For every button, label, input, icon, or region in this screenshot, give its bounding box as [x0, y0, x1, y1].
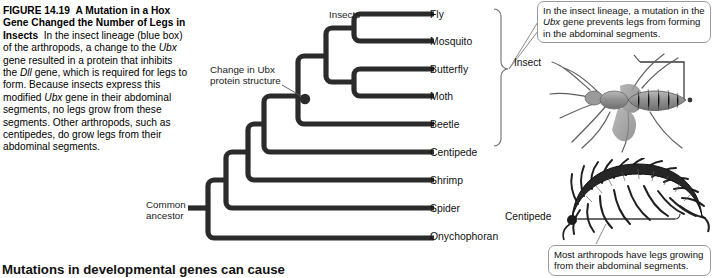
- taxon-label-spider: Spider: [430, 203, 460, 214]
- callout-top-gene: Ubx: [543, 16, 560, 27]
- callout-most-arthropods: Most arthropods have legs growing from t…: [548, 245, 711, 276]
- insect-photo: [546, 46, 706, 156]
- taxon-label-centipede: Centipede: [430, 147, 477, 158]
- taxon-label-beetle: Beetle: [430, 119, 459, 130]
- taxon-label-butterfly: Butterfly: [430, 64, 468, 75]
- branch-mosquito: [354, 28, 434, 41]
- branch-node2-up: [226, 152, 248, 180]
- common-ancestor-line-2: ancestor: [146, 210, 186, 221]
- figure-container: FIGURE 14.19 A Mutation in a Hox Gene Ch…: [0, 0, 712, 278]
- photo-label-centipede: Centipede: [505, 211, 551, 222]
- common-ancestor-line-1: Common: [146, 199, 186, 210]
- photo-label-insect: Insect: [514, 57, 541, 68]
- branch-spider: [226, 180, 434, 208]
- caption-gene-ubx-1: Ubx: [159, 42, 177, 53]
- taxon-label-fly: Fly: [430, 9, 444, 20]
- branch-lepidoptera-stem: [326, 56, 354, 82]
- phylogenetic-tree: [186, 0, 436, 258]
- branch-moth: [354, 82, 434, 96]
- callout-bottom-line-2: from their abdominal segments.: [554, 260, 688, 271]
- figure-number: FIGURE 14.19: [3, 5, 70, 16]
- branch-diptera-stem: [326, 28, 354, 56]
- ubx-annotation-line-1: Change in Ubx: [210, 64, 281, 75]
- callout-bottom-line-1: Most arthropods have legs growing: [554, 249, 703, 260]
- insects-clade-label: Insects: [329, 9, 360, 20]
- caption-gene-ubx-2: Ubx: [44, 92, 62, 103]
- centipede-body: [572, 164, 702, 218]
- figure-caption: FIGURE 14.19 A Mutation in a Hox Gene Ch…: [3, 5, 189, 154]
- taxon-label-moth: Moth: [430, 91, 453, 102]
- branch-insects-stem: [264, 96, 298, 124]
- branch-beetle: [298, 96, 434, 124]
- insects-brace: [494, 9, 508, 146]
- branch-butterfly: [354, 69, 434, 82]
- ubx-annotation-line-2: protein structure: [210, 75, 281, 86]
- branch-fly: [354, 14, 434, 28]
- taxon-label-onychophoran: Onychophoran: [430, 231, 498, 242]
- taxon-label-shrimp: Shrimp: [430, 175, 463, 186]
- branch-root-up: [208, 180, 226, 208]
- centipede-head: [567, 215, 577, 225]
- insect-wing-lower: [612, 108, 636, 141]
- callout-top-line-3: the abdominal segments.: [553, 28, 660, 39]
- section-running-head: Mutations in developmental genes can cau…: [2, 262, 285, 277]
- branch-shrimp: [248, 152, 434, 180]
- centipede-antenna: [563, 224, 570, 240]
- ubx-change-annotation: Change in Ubx protein structure: [210, 64, 281, 86]
- ubx-change-node-marker: [300, 94, 310, 104]
- branch-holometabola-up: [298, 56, 326, 96]
- insect-cercus: [688, 98, 693, 103]
- branch-centipede: [264, 124, 434, 152]
- centipede-photo: [562, 158, 710, 243]
- common-ancestor-label: Common ancestor: [146, 199, 186, 221]
- callout-insect-lineage: In the insect lineage, a mutation in the…: [537, 1, 711, 43]
- taxon-label-mosquito: Mosquito: [430, 36, 472, 47]
- caption-gene-dll: Dll: [20, 67, 32, 78]
- insect-thorax: [600, 91, 628, 109]
- callout-top-line-1: In the insect lineage, a mutation in the: [543, 5, 705, 16]
- branch-onychophoran: [208, 208, 434, 238]
